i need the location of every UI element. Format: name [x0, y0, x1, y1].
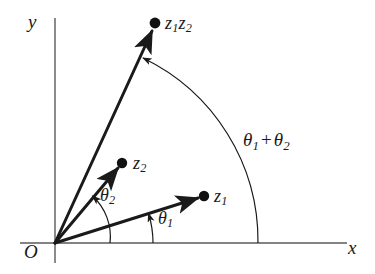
angle-label-theta2-symbol: θ: [100, 185, 109, 205]
point-label-z1-sub: 1: [221, 194, 227, 208]
angle-arc-theta1: [149, 214, 154, 244]
origin-label: O: [24, 242, 38, 261]
angle-sum-symbol1: θ: [243, 129, 252, 150]
point-label-z1z2-base1: z: [165, 13, 172, 33]
point-dot-z1z2: [150, 18, 161, 29]
angle-label-theta1-plus-theta2: θ1+θ2: [243, 130, 290, 153]
diagram-canvas: [0, 0, 375, 274]
point-label-z1-base: z: [214, 186, 221, 206]
point-label-z1z2: z1z2: [165, 14, 192, 35]
angle-label-theta1-sub: 1: [167, 216, 173, 230]
angle-sum-sub2: 2: [283, 138, 289, 153]
angle-label-theta1-symbol: θ: [158, 208, 167, 228]
point-dot-z1: [199, 191, 209, 201]
point-label-z1: z1: [214, 187, 227, 208]
x-axis-label: x: [348, 238, 356, 257]
point-dot-z2: [117, 158, 127, 168]
angle-sum-symbol2: θ: [274, 129, 283, 150]
angle-sum-plus-sign: +: [259, 129, 274, 150]
point-label-z2-base: z: [133, 153, 140, 173]
point-label-z2-sub: 2: [140, 161, 146, 175]
vector-z1z2: [55, 31, 152, 243]
point-label-z1z2-sub2: 2: [186, 21, 192, 35]
angle-label-theta2-sub: 2: [109, 193, 115, 207]
point-label-z2: z2: [133, 154, 146, 175]
complex-multiplication-diagram: y x O z1 z2 z1z2 θ1 θ2 θ1+θ2: [0, 0, 375, 274]
y-axis-label: y: [28, 12, 36, 31]
angle-label-theta1: θ1: [158, 209, 173, 230]
angle-label-theta2: θ2: [100, 186, 115, 207]
vector-z1: [55, 198, 198, 243]
point-label-z1z2-base2: z: [178, 13, 185, 33]
